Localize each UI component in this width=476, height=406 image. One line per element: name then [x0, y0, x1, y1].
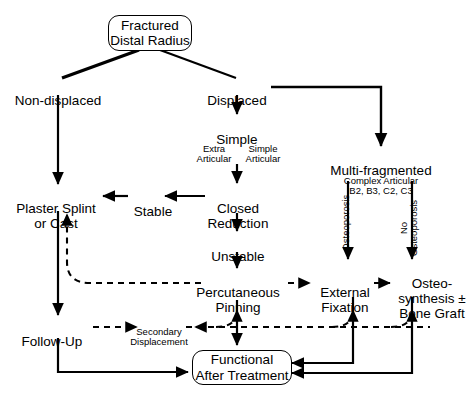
node-non-displaced: Non-displaced: [12, 78, 104, 108]
node-percutaneous-pinning-label: Percutaneous Pinning: [196, 285, 279, 315]
node-osteosynthesis-bone-graft: Osteo- synthesis ± Bone Graft: [392, 261, 472, 321]
node-displaced-label: Displaced: [207, 93, 266, 108]
node-external-fixation-label: External Fixation: [320, 285, 370, 315]
node-simple-simple-articular: Simple Articular: [238, 133, 288, 165]
node-non-displaced-label: Non-displaced: [15, 93, 101, 108]
node-osteosynthesis-bone-graft-label: Osteo- synthesis ± Bone Graft: [398, 276, 465, 321]
node-simple-extra-articular: Extra Articular: [190, 133, 238, 165]
edge-label-no-osteoporosis: No Osteoporosis: [388, 187, 420, 269]
node-closed-reduction-label: Closed Reduction: [208, 201, 269, 231]
edge-label-no-osteoporosis-text: No Osteoporosis: [398, 200, 420, 256]
node-root: Fractured Distal Radius: [108, 15, 192, 51]
node-displaced: Displaced: [204, 78, 270, 108]
node-root-label: Fractured Distal Radius: [110, 18, 190, 48]
node-closed-reduction: Closed Reduction: [202, 186, 274, 231]
edge-label-osteoporosis: Osteoporosis: [330, 185, 351, 261]
node-unstable: Unstable: [204, 234, 272, 264]
node-functional-after-treatment: Functional After Treatment: [192, 350, 292, 385]
node-external-fixation: External Fixation: [314, 270, 376, 315]
node-plaster-splint-or-cast-label: Plaster Splint or Cast: [16, 201, 96, 231]
flowchart-diagram: Fractured Distal Radius Non-displaced Di…: [0, 0, 476, 406]
node-percutaneous-pinning: Percutaneous Pinning: [186, 270, 290, 315]
node-functional-after-treatment-label: Functional After Treatment: [195, 352, 288, 382]
node-plaster-splint-or-cast: Plaster Splint or Cast: [8, 186, 104, 231]
node-follow-up: Follow-Up: [12, 319, 92, 349]
edge-label-osteoporosis-text: Osteoporosis: [340, 195, 351, 251]
node-follow-up-label: Follow-Up: [22, 334, 83, 349]
node-secondary-displacement-label: Secondary Displacement: [130, 326, 188, 348]
node-simple-extra-articular-label: Extra Articular: [197, 143, 232, 165]
node-simple-simple-articular-label: Simple Articular: [246, 143, 281, 165]
node-unstable-label: Unstable: [211, 249, 264, 264]
node-stable-label: Stable: [134, 204, 172, 219]
node-stable: Stable: [130, 189, 176, 219]
node-secondary-displacement: Secondary Displacement: [126, 316, 192, 348]
